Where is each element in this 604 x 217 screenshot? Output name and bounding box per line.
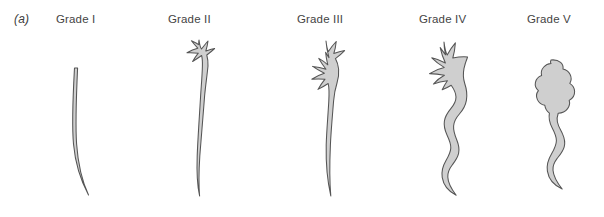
grade-2-tract [187,40,215,196]
grade-4-tract [430,42,468,195]
grade-2-ureter-and-pelvis [187,40,215,196]
figure-panel: (a) Grade I Grade II Grade III Grade IV … [0,0,604,217]
grade-5-tract [535,60,574,189]
grade-3-tract [312,41,345,196]
grade-1-tract [73,68,89,195]
vesicoureteral-reflux-grades-illustration [0,0,604,217]
grade-5-ureter-and-pelvis [535,60,574,189]
grade-1-ureter [73,68,89,195]
grade-3-ureter-and-pelvis [312,41,345,196]
grade-4-ureter-and-pelvis [430,42,468,195]
